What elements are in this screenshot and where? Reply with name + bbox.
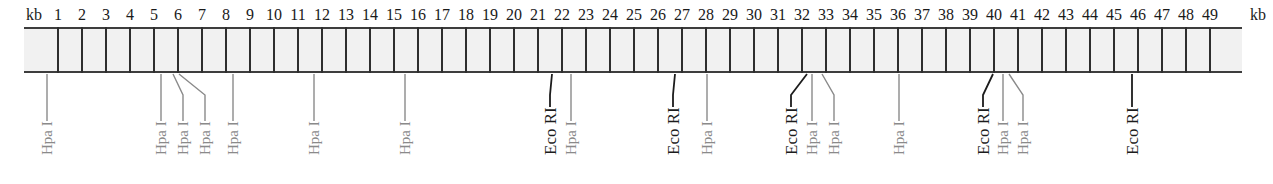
kb-tick-line xyxy=(57,27,59,73)
scale-number: 21 xyxy=(530,6,546,24)
kb-tick-line xyxy=(897,27,899,73)
kb-tick-line xyxy=(609,27,611,73)
scale-number: 35 xyxy=(866,6,882,24)
scale-number: 23 xyxy=(578,6,594,24)
hpai-site-label: Hpa I xyxy=(827,121,842,155)
scale-number: 45 xyxy=(1106,6,1122,24)
scale-number: 14 xyxy=(362,6,378,24)
scale-number: 13 xyxy=(338,6,354,24)
kb-tick-line xyxy=(1137,27,1139,73)
kb-tick-line xyxy=(249,27,251,73)
hpai-site-label: Hpa I xyxy=(700,121,715,155)
scale-number: 33 xyxy=(818,6,834,24)
hpai-site-label: Hpa I xyxy=(398,121,413,155)
restriction-map: kb 1234567891011121314151617181920212223… xyxy=(0,0,1273,184)
kb-tick-line xyxy=(105,27,107,73)
hpai-site-label: Hpa I xyxy=(154,121,169,155)
scale-number: 27 xyxy=(674,6,690,24)
kb-tick-line xyxy=(201,27,203,73)
scale-number: 40 xyxy=(986,6,1002,24)
kb-tick-line xyxy=(921,27,923,73)
hpai-site-line xyxy=(1009,74,1023,121)
kb-tick-line xyxy=(849,27,851,73)
scale-number: 26 xyxy=(650,6,666,24)
kb-tick-line xyxy=(465,27,467,73)
kb-tick-line xyxy=(1113,27,1115,73)
kb-tick-line xyxy=(633,27,635,73)
kb-tick-line xyxy=(417,27,419,73)
scale-number: 3 xyxy=(102,6,110,24)
hpai-site-label: Hpa I xyxy=(226,121,241,155)
ecori-site-label: Eco RI xyxy=(975,107,992,155)
ecori-site-line xyxy=(550,74,552,107)
scale-number: 30 xyxy=(746,6,762,24)
kb-tick-line xyxy=(705,27,707,73)
scale-number: 32 xyxy=(794,6,810,24)
kb-tick-line xyxy=(1161,27,1163,73)
kb-tick-line xyxy=(1065,27,1067,73)
scale-number: 31 xyxy=(770,6,786,24)
hpai-site-line xyxy=(822,74,834,121)
kb-tick-line xyxy=(273,27,275,73)
scale-number: 1 xyxy=(54,6,62,24)
kb-tick-line xyxy=(873,27,875,73)
kb-tick-line xyxy=(729,27,731,73)
hpai-site-line xyxy=(173,74,183,121)
scale-number: 5 xyxy=(150,6,158,24)
scale-number: 49 xyxy=(1202,6,1218,24)
kb-tick-line xyxy=(969,27,971,73)
scale-number: 42 xyxy=(1034,6,1050,24)
kb-tick-line xyxy=(177,27,179,73)
scale-number: 12 xyxy=(314,6,330,24)
hpai-site-label: Hpa I xyxy=(996,121,1011,155)
scale-number: 17 xyxy=(434,6,450,24)
ecori-site-line xyxy=(791,74,807,107)
kb-tick-line xyxy=(369,27,371,73)
kb-tick-line xyxy=(513,27,515,73)
hpai-site-label: Hpa I xyxy=(892,121,907,155)
scale-number: 34 xyxy=(842,6,858,24)
scale-number: 47 xyxy=(1154,6,1170,24)
scale-number: 16 xyxy=(410,6,426,24)
scale-number: 10 xyxy=(266,6,282,24)
hpai-site-label: Hpa I xyxy=(198,121,213,155)
hpai-site-label: Hpa I xyxy=(307,121,322,155)
kb-tick-line xyxy=(393,27,395,73)
scale-number: 48 xyxy=(1178,6,1194,24)
kb-tick-line xyxy=(657,27,659,73)
kb-tick-line xyxy=(1089,27,1091,73)
kb-tick-line xyxy=(777,27,779,73)
kb-tick-line xyxy=(801,27,803,73)
kb-tick-line xyxy=(585,27,587,73)
scale-number: 15 xyxy=(386,6,402,24)
kb-tick-line xyxy=(561,27,563,73)
kb-tick-line xyxy=(153,27,155,73)
kb-tick-line xyxy=(993,27,995,73)
kb-tick-line xyxy=(681,27,683,73)
scale-number: 8 xyxy=(222,6,230,24)
ecori-site-line xyxy=(673,74,675,107)
kb-tick-line xyxy=(1017,27,1019,73)
ecori-site-label: Eco RI xyxy=(1124,107,1141,155)
hpai-site-label: Hpa I xyxy=(1016,121,1031,155)
scale-number: 29 xyxy=(722,6,738,24)
scale-number: 2 xyxy=(78,6,86,24)
kb-tick-line xyxy=(345,27,347,73)
ecori-site-label: Eco RI xyxy=(542,107,559,155)
scale-number: 39 xyxy=(962,6,978,24)
hpai-site-label: Hpa I xyxy=(564,121,579,155)
unit-label-right: kb xyxy=(1250,6,1266,24)
kb-tick-line xyxy=(81,27,83,73)
ecori-site-line xyxy=(983,74,993,107)
kb-tick-line xyxy=(1185,27,1187,73)
hpai-site-label: Hpa I xyxy=(40,121,55,155)
scale-number: 38 xyxy=(938,6,954,24)
hpai-site-line xyxy=(179,74,205,121)
scale-number: 46 xyxy=(1130,6,1146,24)
scale-number: 44 xyxy=(1082,6,1098,24)
kb-tick-line xyxy=(297,27,299,73)
scale-number: 19 xyxy=(482,6,498,24)
kb-tick-line xyxy=(945,27,947,73)
scale-number: 22 xyxy=(554,6,570,24)
kb-tick-line xyxy=(825,27,827,73)
